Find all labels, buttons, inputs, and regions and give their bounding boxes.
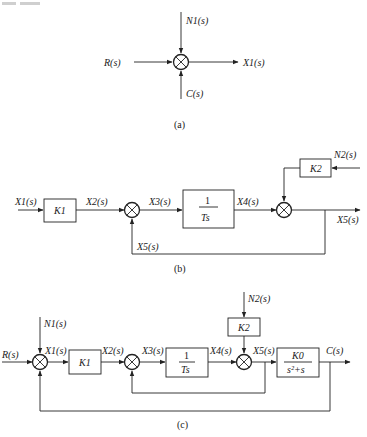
svg-text:K0: K0 (291, 350, 304, 361)
summing-junction-icon (125, 203, 140, 218)
svg-text:1: 1 (184, 350, 189, 361)
svg-text:X3(s): X3(s) (141, 345, 164, 357)
svg-text:X4(s): X4(s) (209, 345, 232, 357)
svg-text:N2(s): N2(s) (247, 293, 271, 305)
svg-text:N1(s): N1(s) (43, 318, 67, 330)
summing-junction-icon (237, 355, 252, 370)
caption-b: (b) (174, 263, 186, 275)
summing-junction-icon (174, 55, 189, 70)
svg-text:R(s): R(s) (1, 349, 19, 361)
label-n1: N1(s) (185, 15, 209, 27)
svg-text:K2: K2 (309, 163, 322, 174)
caption-c: (c) (177, 419, 188, 431)
block-diagrams: R(s) X1(s) N1(s) C(s) (a) K1 1 Ts K2 (0, 0, 367, 437)
svg-text:K1: K1 (78, 357, 91, 368)
svg-text:Ts: Ts (181, 364, 190, 375)
cut-off-header-text (2, 2, 40, 5)
svg-text:X2(s): X2(s) (101, 345, 124, 357)
diagram-c: K1 1 Ts K2 K0 s²+s R(s) N1(s) X (1, 292, 350, 431)
diagram-b: K1 1 Ts K2 X1(s) X2(s) X3(s) X4(s) X5(s)… (14, 149, 360, 275)
label-x1: X1(s) (242, 57, 265, 69)
svg-text:K2: K2 (237, 322, 250, 333)
svg-text:C(s): C(s) (326, 345, 344, 357)
summing-junction-icon (33, 355, 48, 370)
svg-text:1: 1 (205, 195, 210, 206)
svg-text:X2(s): X2(s) (85, 196, 108, 208)
label-c: C(s) (186, 88, 204, 100)
summing-junction-icon (125, 355, 140, 370)
block-k1-label: K1 (53, 205, 66, 216)
svg-text:X4(s): X4(s) (236, 196, 259, 208)
svg-text:X5(s): X5(s) (252, 345, 275, 357)
svg-text:N2(s): N2(s) (333, 149, 357, 161)
svg-text:s²+s: s²+s (287, 364, 305, 375)
svg-text:X1(s): X1(s) (44, 345, 67, 357)
diagram-a: R(s) X1(s) N1(s) C(s) (a) (103, 12, 265, 131)
svg-text:X5(s): X5(s) (336, 214, 359, 226)
caption-a: (a) (174, 119, 185, 131)
label-r: R(s) (103, 57, 121, 69)
summing-junction-icon (277, 203, 292, 218)
svg-text:X5(s): X5(s) (136, 241, 159, 253)
svg-text:Ts: Ts (201, 212, 210, 223)
svg-text:X1(s): X1(s) (14, 196, 37, 208)
svg-text:X3(s): X3(s) (148, 196, 171, 208)
